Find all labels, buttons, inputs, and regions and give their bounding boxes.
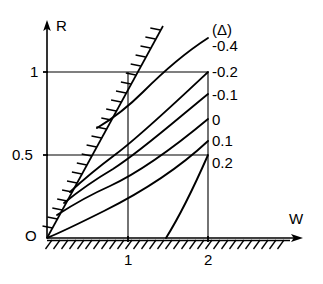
contour-plot-canvas: [0, 0, 323, 284]
contour-neg-0.2: [70, 72, 208, 192]
contour-label-neg-0.2: -0.2: [212, 64, 238, 79]
contour-label-neg-0.1: -0.1: [212, 87, 238, 102]
x-axis-label: W: [289, 211, 303, 226]
y-axis-label: R: [56, 18, 67, 33]
xtick-label-2: 2: [204, 252, 212, 267]
contour-label-0.2: 0.2: [212, 155, 233, 170]
xtick-label-1: 1: [124, 252, 132, 267]
contour-label-0.1: 0.1: [212, 133, 233, 148]
hatched-horizontal-axis: [46, 240, 291, 249]
tick-marks: [43, 72, 208, 242]
ytick-label-1: 1: [30, 64, 38, 79]
contour-neg-0.1: [64, 94, 208, 203]
contour-0: [57, 119, 208, 215]
grid-lines: [47, 72, 208, 238]
axis-lines: [43, 20, 303, 242]
figure-root: R W O 1 0.5 1 2 (Δ) -0.4 -0.2 -0.1 0 0.1…: [0, 0, 323, 284]
delta-legend-title: (Δ): [212, 22, 232, 37]
contour-label-0: 0: [212, 112, 220, 127]
hatched-diagonal-boundary: [43, 26, 164, 238]
contour-label-neg-0.4: -0.4: [212, 38, 238, 53]
ytick-label-0.5: 0.5: [12, 147, 33, 162]
contour-0.2: [166, 155, 208, 238]
origin-label: O: [25, 228, 37, 243]
